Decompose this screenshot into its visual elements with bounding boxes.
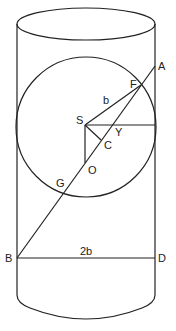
line-SC [85, 125, 101, 140]
label-F: F [130, 78, 137, 90]
cylinder-bottom-arc [17, 295, 155, 319]
label-A: A [158, 60, 166, 72]
line-AB [17, 66, 155, 258]
geometry-diagram: A F b S Y C O G B D 2b [0, 0, 176, 331]
cylinder-top-ellipse [17, 8, 155, 40]
label-Y: Y [115, 126, 123, 138]
label-O: O [88, 164, 97, 176]
label-G: G [56, 177, 65, 189]
line-SF [85, 85, 141, 125]
label-B: B [5, 252, 12, 264]
label-b: b [103, 94, 109, 106]
label-S: S [76, 114, 83, 126]
label-C: C [104, 139, 112, 151]
label-2b: 2b [80, 245, 92, 257]
label-D: D [158, 252, 166, 264]
